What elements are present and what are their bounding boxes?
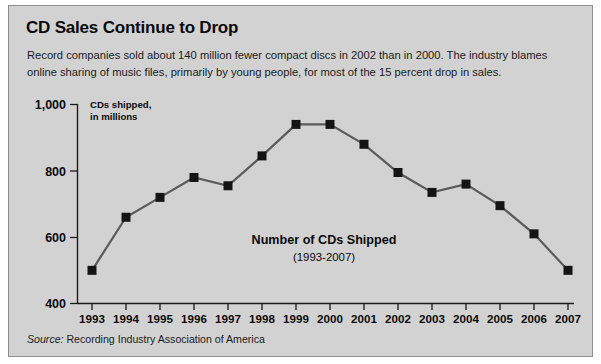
data-point-1994 bbox=[122, 213, 131, 222]
y-tick-label-1000: 1,000 bbox=[35, 98, 66, 112]
x-tick-label-1996: 1996 bbox=[181, 312, 207, 325]
x-axis-labels: 1993 1994 1995 1996 1997 1998 1999 2000 … bbox=[79, 312, 581, 325]
y-axis-label-line2: in millions bbox=[90, 111, 137, 122]
data-point-2002 bbox=[394, 168, 403, 177]
source-credit: Source: Recording Industry Association o… bbox=[27, 333, 265, 345]
x-tick-label-2005: 2005 bbox=[487, 312, 513, 325]
source-text: Recording Industry Association of Americ… bbox=[64, 333, 265, 345]
x-tick-label-2000: 2000 bbox=[317, 312, 343, 325]
x-tick-label-1994: 1994 bbox=[113, 312, 139, 325]
x-tick-label-2004: 2004 bbox=[453, 312, 479, 325]
x-tick-label-1998: 1998 bbox=[249, 312, 275, 325]
x-tick-label-1999: 1999 bbox=[283, 312, 309, 325]
x-tick-label-2003: 2003 bbox=[419, 312, 445, 325]
y-axis-label-line1: CDs shipped, bbox=[90, 99, 152, 110]
x-tick-label-2002: 2002 bbox=[385, 312, 411, 325]
data-point-2001 bbox=[360, 140, 369, 149]
line-chart: 1,000 800 600 400 CDs shipped, in millio… bbox=[9, 6, 594, 358]
data-point-1999 bbox=[292, 120, 301, 129]
data-point-2006 bbox=[530, 229, 539, 238]
x-tick-label-1997: 1997 bbox=[215, 312, 241, 325]
data-point-1997 bbox=[224, 181, 233, 190]
chart-annotation-subtitle: (1993-2007) bbox=[293, 251, 355, 263]
data-point-1996 bbox=[190, 173, 199, 182]
data-point-2003 bbox=[428, 188, 437, 197]
x-tick-label-1993: 1993 bbox=[79, 312, 105, 325]
data-point-1998 bbox=[258, 151, 267, 160]
data-point-2000 bbox=[326, 120, 335, 129]
data-point-2007 bbox=[564, 266, 573, 275]
source-label: Source: bbox=[27, 333, 64, 345]
infographic-panel: CD Sales Continue to Drop Record compani… bbox=[8, 5, 593, 357]
x-tick-label-2007: 2007 bbox=[555, 312, 581, 325]
y-tick-label-800: 800 bbox=[45, 165, 66, 179]
data-point-1993 bbox=[88, 266, 97, 275]
x-tick-label-2006: 2006 bbox=[521, 312, 547, 325]
y-tick-label-600: 600 bbox=[45, 231, 66, 245]
data-point-1995 bbox=[156, 193, 165, 202]
y-tick-label-400: 400 bbox=[45, 297, 66, 311]
x-tick-label-1995: 1995 bbox=[147, 312, 173, 325]
data-point-2004 bbox=[462, 180, 471, 189]
x-tick-label-2001: 2001 bbox=[351, 312, 377, 325]
data-point-2005 bbox=[496, 201, 505, 210]
chart-annotation-title: Number of CDs Shipped bbox=[252, 233, 397, 247]
